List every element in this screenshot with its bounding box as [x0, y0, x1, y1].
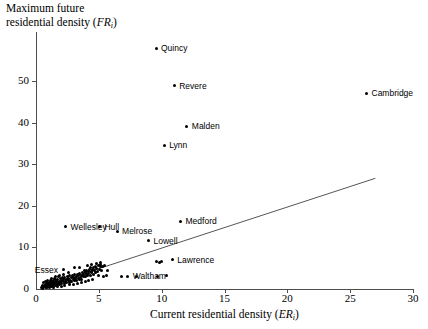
data-point-medford [179, 220, 182, 223]
y-tick-label-50: 50 [3, 74, 29, 86]
point-label-revere: Revere [179, 81, 206, 91]
x-tick-label-10: 10 [149, 292, 175, 304]
data-point [41, 287, 44, 290]
point-label-lowell: Lowell [153, 236, 177, 246]
point-label-quincy: Quincy [161, 43, 187, 53]
data-point [67, 271, 70, 274]
data-point-lynn [163, 144, 166, 147]
x-tick-label-0: 0 [23, 292, 49, 304]
y-tick-label-20: 20 [3, 199, 29, 211]
data-point-melrose [116, 230, 119, 233]
point-label-lynn: Lynn [169, 140, 187, 150]
x-tick-label-5: 5 [86, 292, 112, 304]
data-point [106, 269, 109, 272]
plot-area: 01020304050 051015202530 QuincyRevereMal… [0, 0, 428, 329]
data-point [52, 286, 55, 289]
point-label-medford: Medford [186, 216, 217, 226]
y-tick-label-10: 10 [3, 240, 29, 252]
data-point-lowell [147, 239, 150, 242]
data-point [73, 266, 76, 269]
y-tick-30 [32, 164, 36, 165]
data-point [72, 283, 75, 286]
y-tick-label-40: 40 [3, 116, 29, 128]
data-point [97, 274, 100, 277]
y-axis-line [36, 32, 37, 290]
point-label-waltham: Waltham [133, 271, 166, 281]
point-label-wellesley: Wellesley [71, 222, 107, 232]
data-point-wellesley [64, 225, 67, 228]
data-point-malden [185, 125, 188, 128]
point-label-lawrence: Lawrence [177, 255, 214, 265]
data-point [84, 280, 87, 283]
y-tick-label-30: 30 [3, 157, 29, 169]
data-point [91, 278, 94, 281]
data-point-essex [62, 268, 65, 271]
data-point [105, 274, 108, 277]
data-point [60, 285, 63, 288]
x-tick-label-20: 20 [274, 292, 300, 304]
data-point [87, 279, 90, 282]
data-point [49, 279, 52, 282]
data-point [62, 273, 65, 276]
y-tick-20 [32, 206, 36, 207]
data-point [53, 277, 56, 280]
point-label-essex: Essex [0, 265, 58, 275]
y-tick-10 [32, 247, 36, 248]
data-point [56, 285, 59, 288]
data-point-waltham [126, 275, 129, 278]
x-tick-label-25: 25 [337, 292, 363, 304]
data-point-lawrence [171, 258, 174, 261]
data-point [95, 262, 98, 265]
point-label-malden: Malden [192, 121, 220, 131]
chart-root: Maximum future residential density (FRi)… [0, 0, 428, 329]
data-point [160, 260, 163, 263]
data-point [76, 282, 79, 285]
data-point [100, 269, 103, 272]
data-point [68, 283, 71, 286]
data-point-revere [173, 84, 176, 87]
point-label-melrose: Melrose [122, 226, 152, 236]
y-tick-40 [32, 123, 36, 124]
data-point-quincy [155, 47, 158, 50]
point-label-cambridge: Cambridge [372, 88, 414, 98]
y-tick-50 [32, 81, 36, 82]
x-tick-label-15: 15 [212, 292, 238, 304]
data-point [78, 266, 81, 269]
data-point [103, 264, 106, 267]
data-point [80, 281, 83, 284]
data-point-cambridge [365, 92, 368, 95]
data-point [120, 275, 123, 278]
x-tick-label-30: 30 [400, 292, 426, 304]
data-point [63, 284, 66, 287]
